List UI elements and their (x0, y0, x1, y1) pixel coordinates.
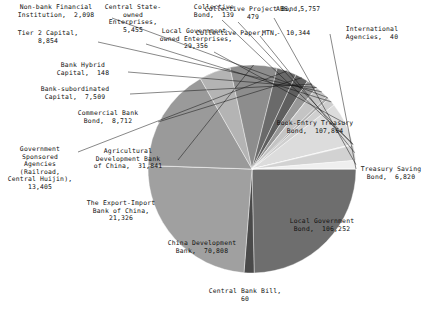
label-central-bank-bill: Central Bank Bill, 60 (190, 288, 300, 303)
label-mtn: MTN, 10,344 (262, 30, 326, 38)
label-abs: ABS, 5,757 (276, 6, 336, 14)
label-local-government-bond: Local Government Bond, 106,252 (270, 218, 374, 233)
label-international-agencies: International Agencies, 40 (330, 26, 414, 41)
pie-chart-figure: Non-bank Financial Institution, 2,098 Ti… (0, 0, 434, 311)
label-bank-subordinated-capital: Bank-subordinated Capital, 7,509 (22, 86, 128, 101)
label-non-bank-financial-institution: Non-bank Financial Institution, 2,098 (2, 4, 110, 19)
label-tier-2-capital: Tier 2 Capital, 8,854 (0, 30, 96, 45)
label-commercial-bank-bond: Commercial Bank Bond, 8,712 (60, 110, 156, 125)
label-export-import-bank-of-china: The Export-Import Bank of China, 21,326 (66, 200, 176, 223)
label-china-development-bank: China Development Bank, 70,808 (146, 240, 258, 255)
label-book-entry-treasury-bond: Book-Entry Treasury Bond, 107,864 (258, 120, 372, 135)
label-government-sponsored-agencies: Government Sponsored Agencies (Railroad,… (2, 146, 78, 192)
label-treasury-saving-bond: Treasury Saving Bond, 6,820 (348, 166, 434, 181)
label-agricultural-development-bank-of-china: Agricultural Development Bank of China, … (76, 148, 180, 171)
label-bank-hybrid-capital: Bank Hybrid Capital, 148 (40, 62, 126, 77)
